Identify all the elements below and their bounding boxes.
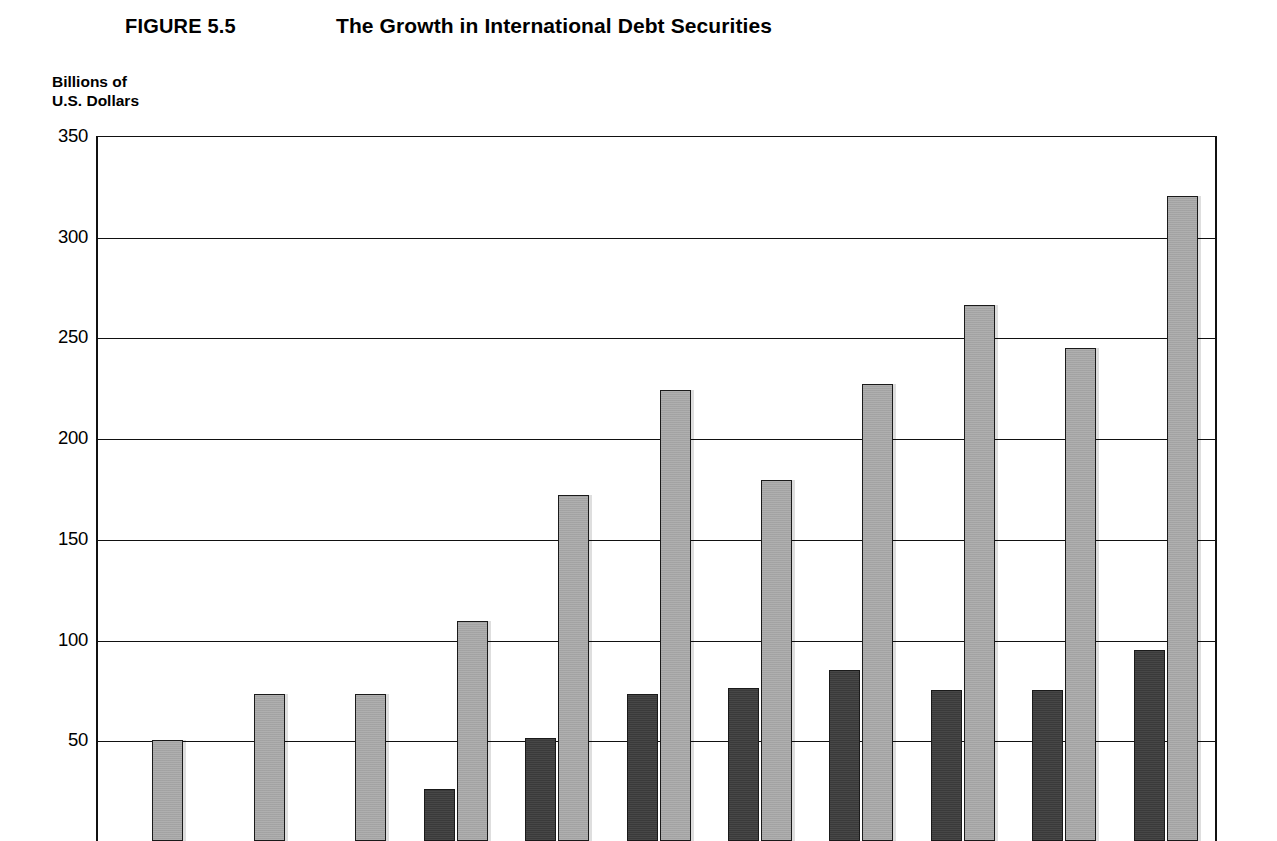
bar-dark xyxy=(931,690,962,841)
y-axis-tick-label: 250 xyxy=(8,326,88,348)
bar-light xyxy=(355,694,386,841)
y-axis-tick-label: 300 xyxy=(8,226,88,248)
bar-light xyxy=(1167,196,1198,841)
bar-light xyxy=(558,495,589,841)
bar-dark xyxy=(1032,690,1063,841)
y-axis-caption: Billions of U.S. Dollars xyxy=(52,72,139,110)
bar-light xyxy=(660,390,691,841)
bar-light xyxy=(862,384,893,841)
bar-dark xyxy=(525,738,556,841)
bar-light xyxy=(761,480,792,841)
figure-label: FIGURE 5.5 xyxy=(125,15,236,38)
y-axis-caption-line2: U.S. Dollars xyxy=(52,91,139,110)
y-axis-tick-label: 50 xyxy=(8,729,88,751)
bar-dark xyxy=(829,670,860,841)
chart-plot-area xyxy=(96,136,1217,841)
bars-layer xyxy=(98,137,1215,841)
bar-light xyxy=(254,694,285,841)
y-axis-tick-label: 350 xyxy=(8,125,88,147)
y-axis-caption-line1: Billions of xyxy=(52,72,139,91)
y-axis-tick-label: 200 xyxy=(8,427,88,449)
figure-title: The Growth in International Debt Securit… xyxy=(336,14,772,38)
bar-light xyxy=(152,740,183,841)
figure-header: FIGURE 5.5 The Growth in International D… xyxy=(0,0,1277,50)
bar-light xyxy=(964,305,995,841)
bar-dark xyxy=(1134,650,1165,841)
bar-dark xyxy=(728,688,759,841)
bar-dark xyxy=(627,694,658,841)
y-axis-tick-label: 100 xyxy=(8,629,88,651)
y-axis-tick-label: 150 xyxy=(8,528,88,550)
bar-dark xyxy=(424,789,455,841)
bar-light xyxy=(1065,348,1096,841)
bar-light xyxy=(457,621,488,841)
